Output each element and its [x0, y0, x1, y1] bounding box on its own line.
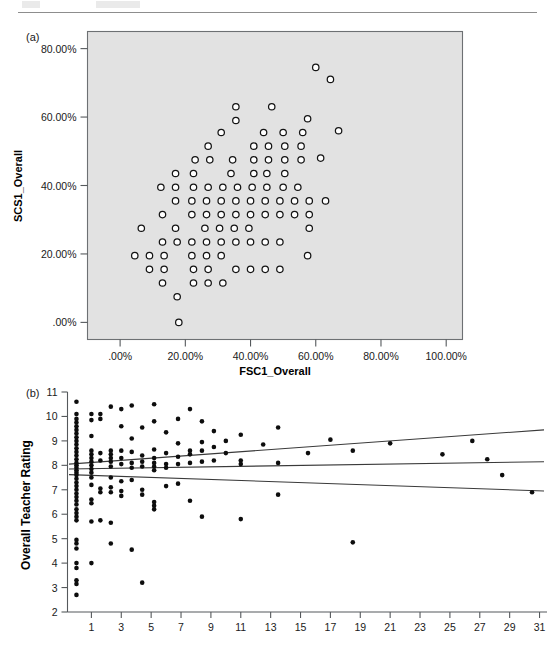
- panel-a-data-point: [190, 266, 196, 272]
- panel-a: (a) .00%20.00%40.00%60.00%80.00%100.00%.…: [0, 0, 555, 380]
- panel-a-data-point: [298, 143, 304, 149]
- panel-b-data-point: [89, 501, 94, 506]
- panel-b-data-point: [74, 561, 79, 566]
- panel-a-data-point: [146, 266, 152, 272]
- panel-b-data-point: [152, 402, 157, 407]
- panel-a-data-point: [218, 239, 224, 245]
- panel-b-xtick-label: 11: [235, 621, 246, 633]
- panel-b-data-point: [200, 514, 205, 519]
- panel-b-xtick-label: 17: [325, 621, 337, 633]
- panel-a-data-point: [306, 211, 312, 217]
- panel-a-data-point: [249, 184, 255, 190]
- panel-b-ytick-label: 7: [52, 484, 58, 496]
- panel-a-data-point: [282, 170, 288, 176]
- panel-a-data-point: [251, 143, 257, 149]
- panel-b-data-point: [224, 439, 229, 444]
- panel-b-data-point: [119, 479, 124, 484]
- panel-b-data-point: [119, 407, 124, 412]
- panel-a-ylabel: SCS1_Overall: [12, 150, 24, 222]
- panel-a-data-point: [190, 184, 196, 190]
- panel-a-data-point: [228, 170, 234, 176]
- panel-a-data-point: [192, 157, 198, 163]
- panel-b-data-point: [152, 447, 157, 452]
- panel-b-data-point: [152, 468, 157, 473]
- panel-b-data-point: [129, 436, 134, 441]
- panel-a-data-point: [205, 280, 211, 286]
- panel-a-data-point: [304, 116, 310, 122]
- panel-b-data-point: [152, 456, 157, 461]
- panel-b-data-point: [74, 412, 79, 417]
- panel-b-data-point: [98, 451, 103, 456]
- panel-a-data-point: [317, 155, 323, 161]
- figure-container: (a) .00%20.00%40.00%60.00%80.00%100.00%.…: [0, 0, 555, 656]
- panel-a-data-point: [207, 157, 213, 163]
- panel-b-data-point: [109, 520, 114, 525]
- panel-a-data-point: [189, 211, 195, 217]
- panel-b-data-point: [119, 494, 124, 499]
- panel-a-data-point: [269, 104, 275, 110]
- panel-b-data-point: [176, 454, 181, 459]
- panel-b-ytick-label: 3: [52, 582, 58, 594]
- panel-b-data-point: [119, 456, 124, 461]
- panel-b-data-point: [74, 541, 79, 546]
- panel-b-data-point: [200, 419, 205, 424]
- panel-a-data-point: [282, 157, 288, 163]
- panel-b-data-point: [109, 464, 114, 469]
- panel-b-ytick-label: 9: [52, 435, 58, 447]
- panel-b-points: [74, 399, 534, 597]
- panel-b-tag: (b): [26, 387, 39, 399]
- panel-b-xtick-label: 19: [354, 621, 366, 633]
- panel-b-data-point: [98, 417, 103, 422]
- panel-b-data-point: [328, 437, 333, 442]
- panel-a-data-point: [327, 76, 333, 82]
- panel-a-data-point: [247, 211, 253, 217]
- panel-a-xtick-label: 100.00%: [425, 350, 466, 362]
- panel-b-xtick-label: 7: [178, 621, 184, 633]
- panel-b-data-point: [188, 407, 193, 412]
- panel-a-data-point: [313, 64, 319, 70]
- panel-a-data-point: [189, 198, 195, 204]
- panel-b-data-point: [140, 492, 145, 497]
- panel-a-data-point: [306, 225, 312, 231]
- panel-a-ytick-label: 20.00%: [41, 248, 77, 260]
- panel-a-data-point: [233, 117, 239, 123]
- panel-b-data-point: [238, 462, 243, 467]
- panel-a-data-point: [216, 225, 222, 231]
- panel-a-data-point: [277, 266, 283, 272]
- panel-a-data-point: [246, 225, 252, 231]
- panel-b-data-point: [119, 462, 124, 467]
- panel-b-data-point: [140, 459, 145, 464]
- panel-a-data-point: [205, 266, 211, 272]
- panel-a-data-point: [218, 211, 224, 217]
- panel-a-data-point: [172, 184, 178, 190]
- panel-b-ytick-label: 2: [52, 606, 58, 618]
- panel-b-data-point: [109, 404, 114, 409]
- panel-b-data-point: [176, 481, 181, 486]
- panel-a-data-point: [262, 239, 268, 245]
- panel-b-xtick-label: 23: [414, 621, 426, 633]
- panel-b-data-point: [176, 417, 181, 422]
- panel-a-data-point: [264, 184, 270, 190]
- panel-b-ylabel: Overall Teacher Rating: [19, 440, 33, 570]
- panel-b-data-point: [74, 518, 79, 523]
- panel-b-data-point: [164, 451, 169, 456]
- panel-b-data-point: [89, 561, 94, 566]
- panel-a-data-point: [229, 157, 235, 163]
- panel-a-data-point: [202, 225, 208, 231]
- panel-b-data-point: [238, 432, 243, 437]
- panel-b-data-point: [224, 451, 229, 456]
- panel-a-data-point: [205, 143, 211, 149]
- panel-a-data-point: [158, 184, 164, 190]
- panel-a-data-point: [262, 211, 268, 217]
- panel-a-data-point: [260, 129, 266, 135]
- panel-b-data-point: [530, 490, 535, 495]
- panel-a-xtick-label: .00%: [108, 350, 132, 362]
- panel-a-data-point: [291, 211, 297, 217]
- panel-b-data-point: [188, 461, 193, 466]
- panel-b-data-point: [89, 475, 94, 480]
- panel-a-ytick-label: 40.00%: [41, 180, 77, 192]
- panel-a-data-point: [220, 280, 226, 286]
- panel-b-data-point: [176, 462, 181, 467]
- panel-b-data-point: [140, 487, 145, 492]
- panel-a-plot-area: [88, 32, 463, 340]
